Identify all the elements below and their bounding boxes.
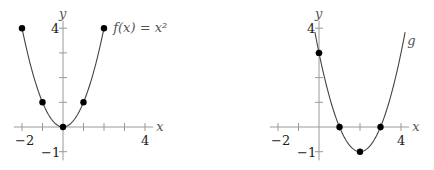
x-tick-label: −2: [15, 133, 34, 148]
data-point: [357, 149, 363, 155]
data-point: [19, 25, 25, 31]
graphs-canvas: −244−1xyf(x) = x²−244−1xyg: [0, 0, 434, 170]
y-tick-label: 4: [307, 21, 315, 36]
y-tick-label: −1: [297, 145, 316, 160]
data-point: [101, 25, 107, 31]
y-axis-label: y: [314, 6, 323, 21]
graph-g: −244−1xyg: [270, 6, 420, 161]
x-axis-label: x: [156, 119, 164, 134]
data-point: [60, 124, 66, 130]
y-tick-label: −1: [41, 145, 60, 160]
y-axis-label: y: [58, 6, 67, 21]
function-label: f(x) = x²: [112, 20, 167, 35]
data-point: [316, 50, 322, 56]
data-point: [80, 99, 86, 105]
y-tick-label: 4: [51, 21, 59, 36]
function-curve: [315, 32, 405, 152]
function-label: g: [407, 33, 415, 48]
x-tick-label: 4: [397, 133, 405, 148]
graph-f: −244−1xyf(x) = x²: [14, 6, 167, 161]
data-point: [39, 99, 45, 105]
x-axis-label: x: [412, 119, 420, 134]
data-point: [336, 124, 342, 130]
x-tick-label: 4: [141, 133, 149, 148]
data-point: [377, 124, 383, 130]
x-tick-label: −2: [271, 133, 290, 148]
